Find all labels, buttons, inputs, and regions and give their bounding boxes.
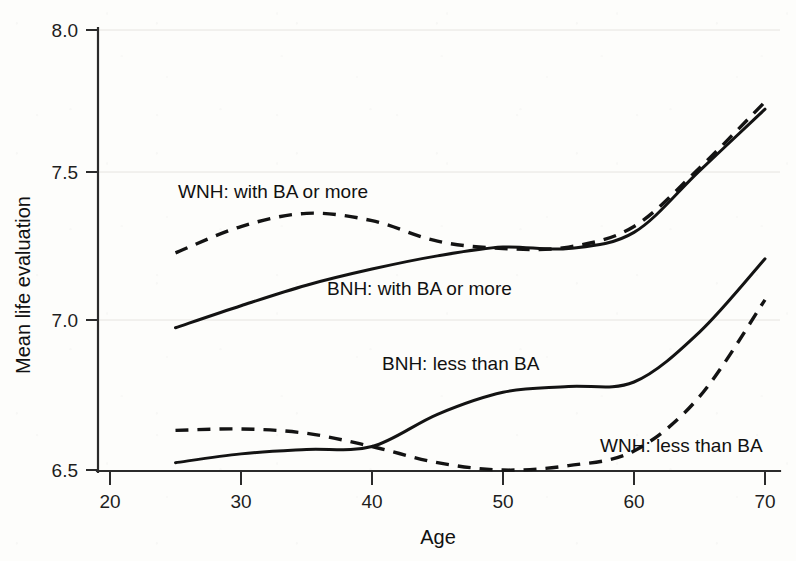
y-tick-label-8-0: 8.0 (52, 20, 78, 41)
series-label-2: BNH: less than BA (382, 353, 540, 374)
x-axis-title: Age (420, 526, 456, 548)
y-tick-label-7-5: 7.5 (52, 162, 78, 183)
chart-page: 8.0 7.5 7.0 6.5 Mean life evaluation 20 … (0, 0, 796, 561)
x-tick-label-70: 70 (754, 491, 775, 512)
x-tick-label-40: 40 (361, 491, 382, 512)
x-tick-label-30: 30 (230, 491, 251, 512)
gridlines (98, 30, 780, 320)
x-axis: 20 30 40 50 60 70 Age (97, 471, 780, 548)
series-label-0: WNH: with BA or more (178, 181, 368, 202)
series-label-1: BNH: with BA or more (327, 278, 512, 299)
y-axis: 8.0 7.5 7.0 6.5 Mean life evaluation (12, 20, 98, 481)
series-line-0 (176, 102, 766, 253)
y-axis-title: Mean life evaluation (12, 196, 34, 374)
x-tick-label-60: 60 (623, 491, 644, 512)
x-tick-label-50: 50 (492, 491, 513, 512)
line-chart: 8.0 7.5 7.0 6.5 Mean life evaluation 20 … (0, 0, 796, 561)
series-annotations: WNH: with BA or moreBNH: with BA or more… (178, 181, 763, 456)
y-tick-label-6-5: 6.5 (52, 460, 78, 481)
series-label-3: WNH: less than BA (600, 435, 763, 456)
x-tick-label-20: 20 (99, 491, 120, 512)
y-tick-label-7-0: 7.0 (52, 310, 78, 331)
